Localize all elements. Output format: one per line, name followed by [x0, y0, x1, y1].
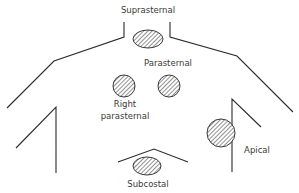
apical-chest-wall-outline — [232, 99, 261, 172]
parasternal-label: Parasternal — [144, 58, 192, 68]
parasternal-window — [158, 75, 180, 97]
left-shoulder-outline — [7, 22, 124, 108]
subcostal-window — [133, 157, 161, 175]
right-parasternal-label-line1: Right — [114, 99, 137, 109]
right-parasternal-window — [113, 75, 135, 97]
right-parasternal-label-line2: parasternal — [101, 111, 150, 121]
left-chest-wall-outline — [16, 107, 56, 173]
suprasternal-window — [133, 30, 163, 48]
diagram-canvas: Suprasternal Parasternal Right parastern… — [0, 0, 299, 193]
suprasternal-label: Suprasternal — [121, 5, 175, 15]
echo-windows-diagram: Suprasternal Parasternal Right parastern… — [0, 0, 299, 193]
apical-window — [207, 119, 235, 147]
apical-label: Apical — [244, 145, 270, 155]
subcostal-label: Subcostal — [127, 179, 168, 189]
